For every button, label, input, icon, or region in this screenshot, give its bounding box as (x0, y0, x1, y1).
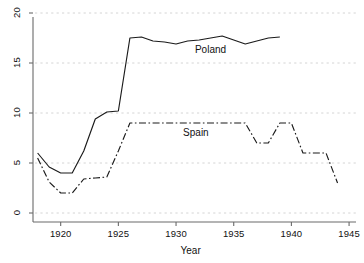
chart-container: 05101520 192019251930193519401945 Year P… (0, 0, 364, 263)
x-tick-label: 1920 (50, 228, 72, 239)
x-tick-label: 1930 (165, 228, 187, 239)
x-tick-label: 1935 (223, 228, 245, 239)
y-tick-label: 0 (11, 202, 22, 224)
chart-series-group (38, 36, 338, 193)
x-tick-label: 1945 (338, 228, 360, 239)
series-label-poland: Poland (195, 44, 226, 55)
x-axis-title: Year (181, 245, 201, 256)
gridlines (35, 13, 356, 213)
series-line-poland (38, 36, 280, 173)
y-tick-label: 20 (11, 2, 22, 24)
chart-plot-area (0, 0, 364, 263)
y-tick-label: 5 (11, 152, 22, 174)
y-tick-label: 15 (11, 52, 22, 74)
x-tick-label: 1940 (280, 228, 302, 239)
series-label-spain: Spain (183, 127, 209, 138)
chart-axes (29, 13, 356, 226)
x-tick-label: 1925 (107, 228, 129, 239)
y-tick-label: 10 (11, 102, 22, 124)
